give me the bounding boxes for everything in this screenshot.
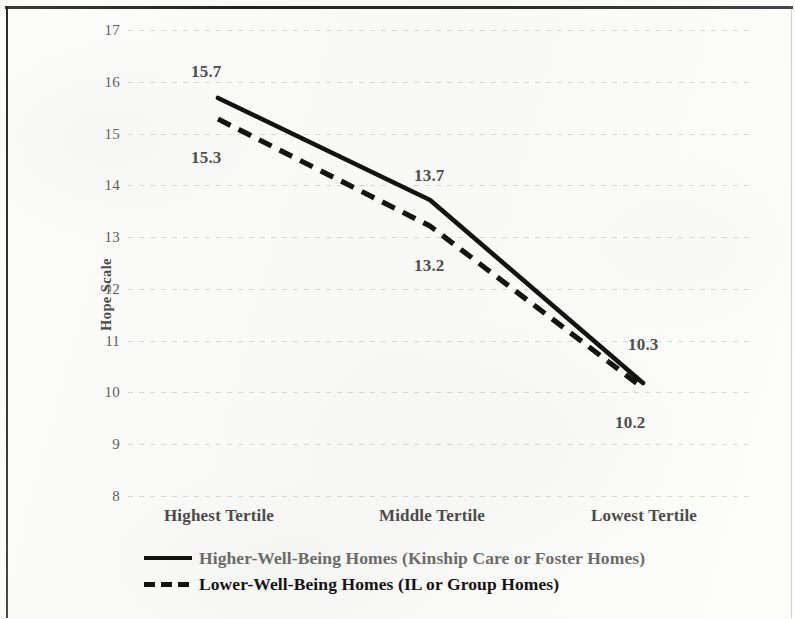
legend-item-higher-well-being: Higher-Well-Being Homes (Kinship Care or… <box>140 545 645 571</box>
data-label-solid-lowest: 10.3 <box>628 335 659 355</box>
legend-dashed-line-icon <box>140 577 192 591</box>
x-tick-label-highest-tertile: Highest Tertile <box>124 506 314 526</box>
data-label-dashed-middle: 13.2 <box>414 256 445 276</box>
data-label-dashed-lowest: 10.2 <box>615 413 646 433</box>
data-label-dashed-highest: 15.3 <box>191 148 222 168</box>
legend-solid-line-icon <box>140 551 192 565</box>
chart-figure: 17 16 15 14 13 12 11 10 9 8 Hope Scale 1… <box>0 0 795 619</box>
plot-area: 17 16 15 14 13 12 11 10 9 8 Hope Scale 1… <box>0 0 795 619</box>
data-label-solid-highest: 15.7 <box>191 62 222 82</box>
x-tick-label-lowest-tertile: Lowest Tertile <box>549 506 739 526</box>
legend: Higher-Well-Being Homes (Kinship Care or… <box>140 545 645 597</box>
series-line-dashed <box>218 119 643 388</box>
x-tick-label-middle-tertile: Middle Tertile <box>337 506 527 526</box>
legend-item-label: Higher-Well-Being Homes (Kinship Care or… <box>199 548 645 569</box>
legend-item-lower-well-being: Lower-Well-Being Homes (IL or Group Home… <box>140 571 645 597</box>
data-label-solid-middle: 13.7 <box>414 166 445 186</box>
series-lines <box>0 0 795 619</box>
legend-item-label: Lower-Well-Being Homes (IL or Group Home… <box>199 574 559 595</box>
